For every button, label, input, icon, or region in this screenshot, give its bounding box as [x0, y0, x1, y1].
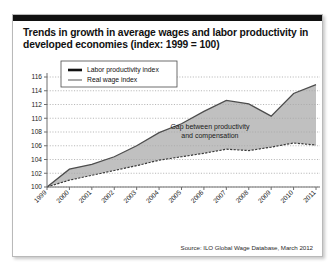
panel-top-bar	[13, 15, 322, 21]
y-tick-110: 110	[31, 115, 42, 122]
chart-panel: Trends in growth in average wages and la…	[12, 14, 323, 257]
line-chart: 100102104106108110112114116 199920002001…	[13, 55, 324, 235]
y-tick-102: 102	[31, 170, 42, 177]
x-tick-2006: 2006	[189, 189, 205, 205]
plot-area: 100102104106108110112114116 199920002001…	[13, 55, 324, 235]
y-axis-tick-labels: 100102104106108110112114116	[31, 73, 42, 190]
y-tick-104: 104	[31, 156, 42, 163]
x-tick-2000: 2000	[55, 189, 71, 205]
y-tick-112: 112	[31, 101, 42, 108]
x-tick-2003: 2003	[122, 189, 138, 205]
y-tick-108: 108	[31, 128, 42, 135]
gap-annotation: Gap between productivityand compensation	[170, 123, 249, 140]
x-tick-2005: 2005	[167, 189, 183, 205]
annotation-line-1: Gap between productivity	[170, 123, 249, 131]
x-tick-2011: 2011	[302, 189, 317, 204]
y-tick-106: 106	[31, 142, 42, 149]
x-tick-1999: 1999	[32, 189, 48, 205]
chart-title: Trends in growth in average wages and la…	[23, 27, 313, 52]
source-note: Source: ILO Global Wage Database, March …	[181, 244, 313, 251]
x-tick-2007: 2007	[212, 189, 228, 205]
x-axis-tick-labels: 1999200020012002200320042005200620072008…	[32, 189, 317, 205]
y-tick-100: 100	[31, 183, 42, 190]
x-tick-2001: 2001	[77, 189, 93, 205]
x-tick-2010: 2010	[279, 189, 295, 205]
chart-legend: Labor productivity indexReal wage index	[61, 61, 177, 87]
x-tick-2004: 2004	[144, 189, 160, 205]
x-tick-2009: 2009	[257, 189, 273, 205]
x-tick-2008: 2008	[234, 189, 250, 205]
annotation-line-2: and compensation	[181, 132, 238, 140]
legend-label-wage: Real wage index	[87, 76, 138, 84]
y-tick-114: 114	[31, 87, 42, 94]
x-tick-2002: 2002	[100, 189, 116, 205]
y-tick-116: 116	[31, 73, 42, 80]
legend-label-productivity: Labor productivity index	[87, 66, 159, 74]
